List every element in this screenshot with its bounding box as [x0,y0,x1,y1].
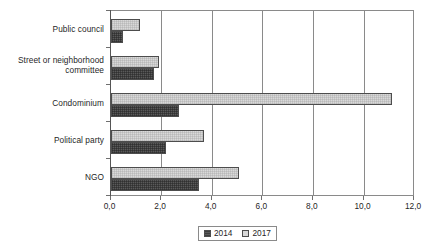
x-tick-label-4: 4,0 [191,201,231,211]
bar-condominium-2017 [111,93,393,105]
legend-item-2017: 2017 [242,229,270,238]
x-tick-label-6: 6,0 [241,201,281,211]
plot-area [110,10,415,196]
x-tick-label-0: 0,0 [90,201,130,211]
bar-condominium-2014 [111,105,180,117]
x-tick-label-12: 12,0 [393,201,429,211]
bar-public-council-2017 [111,19,140,31]
bar-political-party-2017 [111,130,205,142]
category-axis-labels: Public council Street or neighborhood co… [0,10,104,196]
legend-label-2017: 2017 [252,229,270,238]
x-tick-label-10: 10,0 [343,201,383,211]
x-tick-mark-4 [211,196,212,200]
bar-ngo-2017 [111,167,239,179]
category-label-condominium: Condominium [0,99,104,109]
horizontal-bar-chart: Public council Street or neighborhood co… [0,0,429,249]
bar-street-committee-2017 [111,56,159,68]
value-axis-ticks: 0,0 2,0 4,0 6,0 8,0 10,0 12,0 [0,196,429,214]
x-tick-mark-12 [413,196,414,200]
category-label-street-committee: Street or neighborhood committee [0,56,104,75]
plot-inner [111,11,414,195]
legend-label-2014: 2014 [214,229,232,238]
x-tick-label-8: 8,0 [292,201,332,211]
x-tick-mark-2 [160,196,161,200]
x-tick-mark-0 [110,196,111,200]
dark-gray-square-icon [204,230,211,237]
x-tick-label-2: 2,0 [140,201,180,211]
x-tick-mark-6 [261,196,262,200]
x-tick-mark-10 [363,196,364,200]
bar-street-committee-2014 [111,68,154,80]
x-tick-mark-8 [312,196,313,200]
bar-ngo-2014 [111,179,200,191]
legend-item-2014: 2014 [204,229,232,238]
chart-legend: 2014 2017 [198,226,277,241]
bar-public-council-2014 [111,31,124,43]
light-gray-square-icon [242,230,249,237]
category-label-ngo: NGO [0,173,104,183]
bar-political-party-2014 [111,142,167,154]
category-label-public-council: Public council [0,25,104,35]
category-label-political-party: Political party [0,136,104,146]
